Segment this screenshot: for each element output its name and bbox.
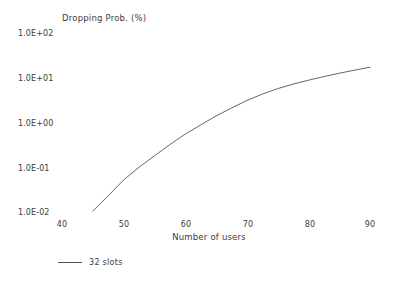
chart-figure: Dropping Prob. (%) 1.0E+02 1.0E+01 1.0E+… bbox=[0, 0, 400, 288]
legend: 32 slots bbox=[58, 258, 123, 267]
legend-line-swatch-icon bbox=[58, 262, 82, 263]
data-series-line bbox=[93, 67, 370, 211]
x-axis-title: Number of users bbox=[172, 232, 246, 242]
x-axis-title-wrapper: Number of users bbox=[0, 232, 400, 242]
legend-item-label: 32 slots bbox=[89, 258, 123, 267]
plot-area bbox=[0, 0, 400, 288]
